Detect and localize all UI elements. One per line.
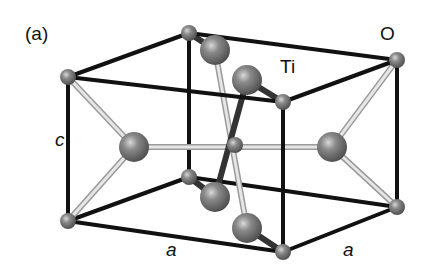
small-atom	[60, 69, 76, 85]
small-atom	[181, 25, 197, 41]
center-atom	[227, 137, 243, 153]
large-atom	[232, 213, 262, 243]
small-atom	[275, 244, 291, 260]
small-atom	[181, 169, 197, 185]
oxygen-label: O	[380, 24, 395, 43]
axis-label-c: c	[55, 130, 65, 149]
axis-label-a-right: a	[343, 240, 354, 259]
large-atom	[119, 132, 149, 162]
small-atom	[60, 213, 76, 229]
large-atom	[317, 132, 347, 162]
large-atom	[200, 182, 230, 212]
large-atom	[200, 35, 230, 65]
axis-label-a-front: a	[166, 240, 177, 259]
small-atom	[275, 94, 291, 110]
small-atom	[389, 199, 405, 215]
small-atom	[389, 52, 405, 68]
large-atom	[232, 65, 262, 95]
panel-label: (a)	[25, 24, 48, 43]
titanium-label: Ti	[280, 57, 295, 76]
